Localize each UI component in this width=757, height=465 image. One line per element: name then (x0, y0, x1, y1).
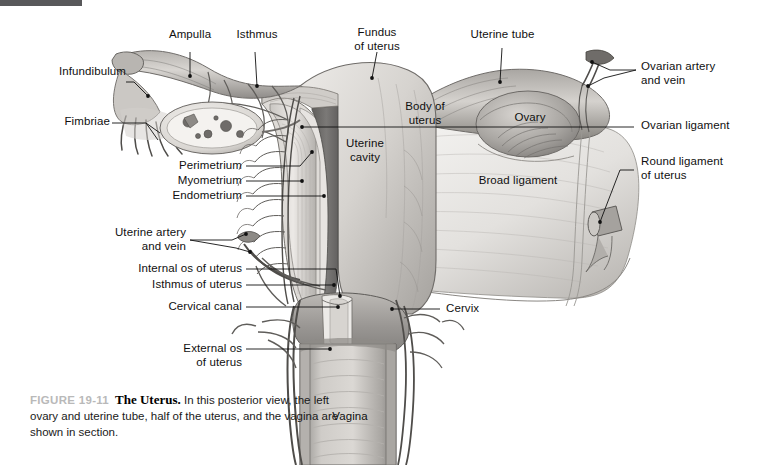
label-endometrium: Endometrium (130, 189, 242, 203)
label-ovarian-ligament: Ovarian ligament (641, 119, 753, 133)
label-uterine-tube: Uterine tube (455, 28, 550, 42)
label-uterine-cavity: Uterine cavity (337, 137, 393, 164)
label-external-os-of-uterus: External os of uterus (140, 342, 242, 369)
label-ovarian-artery-and-vein: Ovarian artery and vein (641, 60, 751, 87)
label-body-of-uterus: Body of uterus (395, 100, 455, 127)
label-internal-os-of-uterus: Internal os of uterus (110, 262, 242, 276)
label-round-ligament-of-uterus: Round ligament of uterus (641, 155, 746, 182)
label-isthmus-of-uterus: Isthmus of uterus (110, 278, 242, 292)
label-isthmus: Isthmus (218, 28, 296, 42)
label-cervix: Cervix (446, 302, 506, 316)
figure-caption: FIGURE 19-11The Uterus. In this posterio… (30, 392, 360, 440)
figure-page: Ampulla Isthmus Fundus of uterus Uterine… (0, 0, 757, 465)
figure-title: The Uterus. (115, 392, 181, 407)
label-fundus-of-uterus: Fundus of uterus (340, 26, 414, 53)
label-ovary: Ovary (500, 111, 560, 125)
label-infundibulum: Infundibulum (50, 65, 126, 79)
label-cervical-canal: Cervical canal (110, 300, 242, 314)
label-uterine-artery-and-vein: Uterine artery and vein (100, 226, 186, 253)
label-broad-ligament: Broad ligament (468, 174, 568, 188)
figure-number: FIGURE 19-11 (30, 394, 109, 406)
label-myometrium: Myometrium (130, 174, 242, 188)
label-fimbriae: Fimbriae (50, 115, 110, 129)
label-perimetrium: Perimetrium (130, 159, 242, 173)
